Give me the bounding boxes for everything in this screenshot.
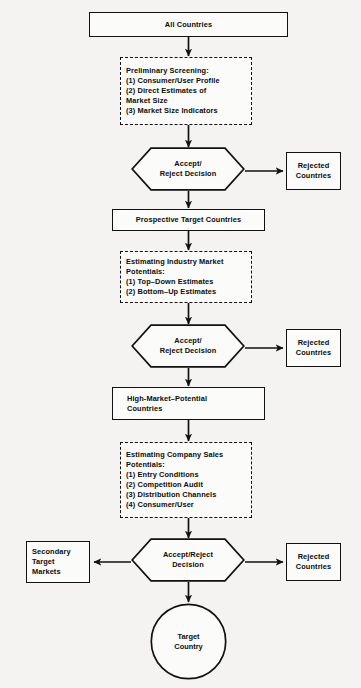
node-all-countries[interactable]: All Countries [89,12,288,37]
node-label: All Countries [165,20,212,30]
node-label: Rejected Countries [296,161,331,181]
node-accept-reject-decision-3[interactable]: Accept/Reject Decision [131,538,245,582]
node-label: Target Country [150,603,227,680]
node-estimating-industry-market-potentials[interactable]: Estimating Industry Market Potentials: (… [120,251,252,303]
node-rejected-countries-3[interactable]: Rejected Countries [286,543,341,581]
node-estimating-company-sales-potentials[interactable]: Estimating Company Sales Potentials: (1)… [120,442,252,518]
node-label: High-Market–Potential Countries [127,394,207,414]
node-label: Estimating Industry Market Potentials: (… [126,257,223,297]
node-label: Accept/ Reject Decision [131,324,245,368]
node-label: Secondary Target Markets [32,547,71,577]
node-label: Estimating Company Sales Potentials: (1)… [126,450,223,510]
node-label: Rejected Countries [296,338,331,358]
node-secondary-target-markets[interactable]: Secondary Target Markets [26,541,90,583]
node-prospective-target-countries[interactable]: Prospective Target Countries [112,209,265,231]
node-label: Accept/Reject Decision [131,538,245,582]
node-accept-reject-decision-2[interactable]: Accept/ Reject Decision [131,324,245,368]
node-rejected-countries-1[interactable]: Rejected Countries [286,152,341,190]
node-label: Preliminary Screening: (1) Consumer/User… [126,66,220,116]
node-accept-reject-decision-1[interactable]: Accept/ Reject Decision [131,147,245,191]
node-label: Accept/ Reject Decision [131,147,245,191]
node-preliminary-screening[interactable]: Preliminary Screening: (1) Consumer/User… [120,57,252,125]
node-label: Prospective Target Countries [136,215,241,225]
node-high-market-potential-countries[interactable]: High-Market–Potential Countries [112,387,265,420]
node-rejected-countries-2[interactable]: Rejected Countries [286,329,341,367]
node-label: Rejected Countries [296,552,331,572]
node-target-country[interactable]: Target Country [150,603,227,680]
flowchart-canvas: All Countries Preliminary Screening: (1)… [0,0,361,688]
